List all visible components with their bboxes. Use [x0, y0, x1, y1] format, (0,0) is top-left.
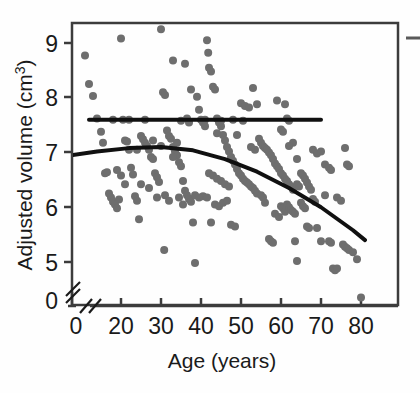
scatter-point: [97, 128, 105, 136]
chart-figure: 9 8 7 6 5 0 0 20 30 40 50 60 70 80 Age (…: [0, 0, 420, 393]
scatter-point: [203, 36, 211, 44]
scatter-point: [173, 139, 181, 147]
scatter-point: [169, 57, 177, 65]
y-tick-label-7: 7: [45, 140, 58, 166]
scatter-point: [211, 86, 219, 94]
scatter-point: [307, 186, 315, 194]
scatter-point: [291, 237, 299, 245]
scatter-point: [129, 170, 137, 178]
scatter-point: [204, 49, 212, 57]
y-axis-title-superscript: 3: [12, 66, 28, 74]
scatter-point: [203, 193, 211, 201]
scatter-point: [291, 210, 299, 218]
scatter-point: [89, 92, 97, 100]
scatter-point: [133, 197, 141, 205]
scatter-point: [117, 35, 125, 43]
scatter-point: [57, 168, 65, 176]
x-tick-label-60: 60: [268, 313, 294, 339]
scatter-point: [301, 204, 309, 212]
scatter-point: [337, 197, 345, 205]
y-tick-label-5: 5: [45, 250, 58, 276]
scatter-point: [341, 144, 349, 152]
scatter-point: [231, 222, 239, 230]
scatter-point: [153, 193, 161, 201]
scatter-point: [269, 239, 277, 247]
x-tick-label-70: 70: [308, 313, 334, 339]
x-tick-labels: 0 20 30 40 50 60 70 80: [70, 313, 374, 339]
scatter-points-layer: [57, 25, 365, 301]
scatter-point: [233, 131, 241, 139]
scatter-point: [161, 91, 169, 99]
y-tick-label-0: 0: [45, 288, 58, 314]
scatter-point: [317, 147, 325, 155]
scatter-point: [165, 197, 173, 205]
scatter-point: [157, 25, 165, 33]
scatter-point: [349, 248, 357, 256]
scatter-point: [99, 139, 107, 147]
x-tick-label-30: 30: [148, 313, 174, 339]
x-axis-title: Age (years): [168, 349, 277, 372]
scatter-point: [353, 255, 361, 263]
x-tick-label-80: 80: [348, 313, 374, 339]
scatter-point: [155, 178, 163, 186]
scatter-point: [177, 162, 185, 170]
scatter-point: [145, 184, 153, 192]
scatter-point: [313, 224, 321, 232]
scatter-point: [345, 162, 353, 170]
scatter-point: [195, 106, 203, 114]
scatter-point: [179, 177, 187, 185]
x-tick-label-20: 20: [108, 313, 134, 339]
y-tick-label-8: 8: [45, 85, 58, 111]
scatter-point: [357, 294, 365, 302]
scatter-point: [113, 204, 121, 212]
scatter-point: [137, 180, 145, 188]
scatter-point: [160, 246, 168, 254]
scatter-point: [317, 237, 325, 245]
scatter-point: [261, 199, 269, 207]
scatter-plot-svg: 9 8 7 6 5 0 0 20 30 40 50 60 70 80 Age (…: [0, 0, 420, 393]
scatter-point: [285, 142, 293, 150]
scatter-point: [305, 224, 313, 232]
y-axis-title-close: ): [13, 60, 36, 67]
scatter-point: [295, 182, 303, 190]
scatter-point: [247, 143, 255, 151]
scatter-point: [115, 196, 123, 204]
scatter-point: [187, 86, 195, 94]
scatter-point: [149, 136, 157, 144]
scatter-point: [207, 67, 215, 75]
scatter-point: [123, 138, 131, 146]
scatter-point: [195, 193, 203, 201]
scatter-point: [207, 219, 215, 227]
scatter-point: [327, 239, 335, 247]
scatter-point: [225, 182, 233, 190]
scatter-point: [179, 201, 187, 209]
y-axis-title-group: Adjusted volume (cm3): [12, 60, 36, 271]
y-axis-title: Adjusted volume (cm3): [12, 60, 36, 271]
scatter-point: [81, 52, 89, 60]
scatter-point: [249, 84, 257, 92]
scatter-point: [279, 128, 287, 136]
scatter-point: [245, 104, 253, 112]
scatter-point: [333, 265, 341, 273]
scatter-point: [175, 193, 183, 201]
scatter-point: [281, 100, 289, 108]
scatter-point: [117, 172, 125, 180]
scatter-point: [135, 215, 143, 223]
scatter-point: [193, 93, 201, 101]
y-tick-label-9: 9: [45, 31, 58, 57]
scatter-point: [273, 96, 281, 104]
scatter-point: [181, 60, 189, 68]
y-tick-labels: 9 8 7 6 5 0: [45, 31, 58, 314]
scatter-point: [293, 257, 301, 265]
scatter-point: [293, 155, 301, 163]
scatter-point: [253, 100, 261, 108]
scatter-point: [321, 191, 329, 199]
scatter-point: [275, 213, 283, 221]
scatter-point: [169, 153, 177, 161]
scatter-point: [191, 259, 199, 267]
y-tick-label-6: 6: [45, 195, 58, 221]
x-tick-label-50: 50: [228, 313, 254, 339]
scatter-point: [103, 168, 111, 176]
scatter-point: [85, 80, 93, 88]
x-tick-label-0: 0: [70, 313, 83, 339]
